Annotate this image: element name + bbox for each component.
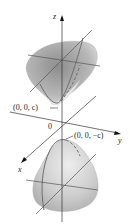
lower-vertex-label: (0, 0, −c) (74, 132, 103, 140)
x-axis-label: x (18, 166, 22, 174)
y-arrow-icon (114, 131, 121, 135)
origin-label: 0 (48, 123, 52, 131)
y-axis-label: y (118, 137, 122, 145)
upper-vertex-label: (0, 0, c) (13, 104, 38, 112)
y-axis (10, 112, 118, 133)
z-arrow-icon (60, 15, 64, 21)
z-axis-label: z (53, 13, 56, 21)
upper-sheet (26, 30, 100, 105)
hyperboloid-diagram (0, 0, 130, 224)
